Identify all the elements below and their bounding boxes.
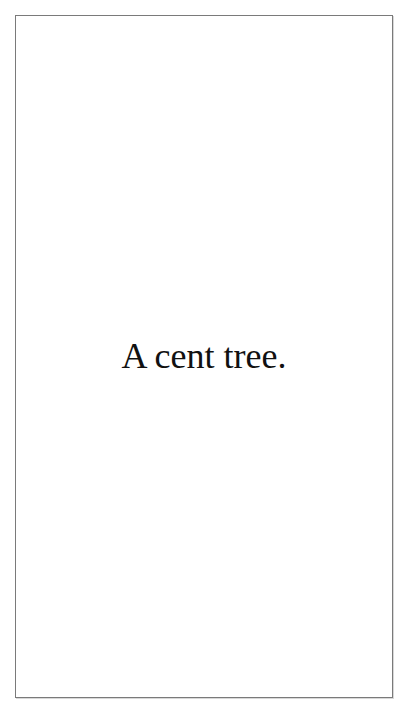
page-frame: A cent tree. [15, 15, 393, 698]
page-text: A cent tree. [16, 338, 392, 374]
